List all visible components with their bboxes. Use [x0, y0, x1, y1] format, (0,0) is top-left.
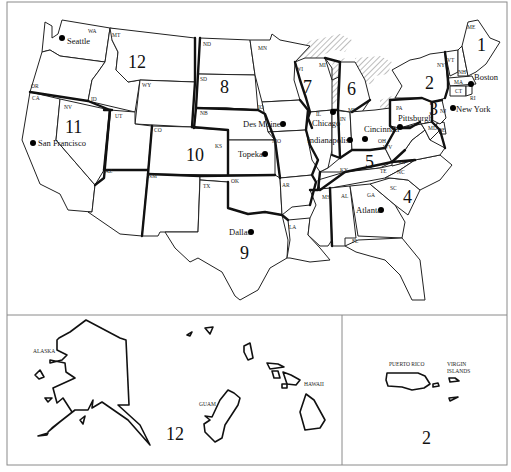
svg-text:NV: NV [64, 104, 72, 110]
svg-text:IO: IO [258, 104, 264, 110]
city-seattle: Seattle [67, 36, 90, 46]
svg-text:FL: FL [352, 238, 359, 244]
city-new-york: New York [456, 104, 491, 114]
svg-text:SD: SD [200, 76, 207, 82]
city-chicago: Chicago [312, 118, 340, 128]
svg-text:CA: CA [32, 95, 40, 101]
svg-text:VA: VA [398, 159, 405, 165]
pacific-region-label: 12 [166, 424, 184, 444]
svg-text:DE: DE [438, 127, 446, 133]
region-12-label: 12 [128, 52, 146, 72]
region-6-label: 6 [347, 79, 356, 99]
svg-text:NH: NH [458, 69, 466, 75]
label-virgin: VIRGIN [447, 361, 466, 367]
mainland-states [22, 20, 500, 300]
city-boston: Boston [474, 72, 499, 82]
city-cincinnati: Cincinnati [364, 124, 400, 134]
svg-text:WY: WY [142, 82, 151, 88]
region-7-label: 7 [303, 77, 312, 97]
city-dallas: Dallas [229, 227, 251, 237]
svg-text:MT: MT [112, 32, 121, 38]
label-alaska: ALASKA [33, 348, 55, 354]
svg-text:ME: ME [467, 24, 476, 30]
svg-text:MS: MS [322, 194, 330, 200]
svg-text:NJ: NJ [440, 108, 447, 114]
region-map: Seattle San Francisco Des Moines Topeka … [0, 0, 511, 472]
alaska-shape [48, 320, 150, 445]
svg-text:RI: RI [470, 95, 476, 101]
svg-text:NB: NB [200, 110, 208, 116]
svg-text:MI: MI [319, 62, 326, 68]
label-islands: ISLANDS [447, 368, 470, 374]
caribbean-inset: PUERTO RICO VIRGIN ISLANDS 2 [386, 361, 470, 448]
svg-text:SC: SC [390, 185, 397, 191]
svg-text:CT: CT [455, 88, 463, 94]
region-5-label: 5 [365, 152, 374, 172]
svg-text:MI: MI [348, 107, 355, 113]
svg-text:LA: LA [289, 224, 296, 230]
city-des-moines: Des Moines [243, 119, 284, 129]
svg-text:TX: TX [203, 183, 210, 189]
svg-text:MD: MD [428, 125, 437, 131]
svg-text:UT: UT [115, 113, 123, 119]
svg-text:PA: PA [396, 105, 403, 111]
svg-text:KS: KS [215, 143, 222, 149]
puerto-rico-shape [386, 373, 430, 390]
svg-text:WI: WI [296, 66, 303, 72]
region-2-label: 2 [425, 73, 434, 93]
svg-text:NC: NC [397, 169, 405, 175]
svg-text:TE: TE [380, 168, 387, 174]
svg-text:ND: ND [203, 41, 211, 47]
city-san-francisco: San Francisco [38, 138, 86, 148]
svg-text:OR: OR [31, 83, 39, 89]
svg-text:AR: AR [282, 182, 290, 188]
region-11-label: 11 [65, 117, 82, 137]
label-hawaii: HAWAII [304, 381, 324, 387]
svg-text:ID: ID [91, 96, 97, 102]
svg-text:OK: OK [231, 178, 239, 184]
svg-text:WA: WA [88, 28, 97, 34]
city-indianapolis: Indianapolis [307, 135, 349, 145]
svg-text:MO: MO [272, 138, 281, 144]
svg-text:WV: WV [383, 144, 392, 150]
svg-text:MA: MA [454, 79, 463, 85]
svg-text:VT: VT [447, 57, 455, 63]
svg-text:KY: KY [340, 167, 348, 173]
svg-text:AZ: AZ [105, 168, 113, 174]
city-topeka: Topeka [238, 149, 263, 159]
svg-text:CO: CO [154, 127, 162, 133]
svg-text:IN: IN [340, 116, 346, 122]
svg-text:IL: IL [316, 111, 322, 117]
svg-text:AL: AL [341, 193, 349, 199]
caribbean-region-label: 2 [422, 428, 431, 448]
city-atlanta: Atlanta [356, 205, 381, 215]
svg-text:NM: NM [148, 173, 157, 179]
region-4-label: 4 [403, 187, 412, 207]
label-guam: GUAM [199, 401, 216, 407]
pacific-inset: ALASKA HAWAII GUAM 12 [33, 320, 325, 445]
region-9-label: 9 [240, 243, 249, 263]
region-1-label: 1 [477, 35, 486, 55]
label-puerto-rico: PUERTO RICO [389, 361, 425, 367]
svg-text:GA: GA [367, 192, 375, 198]
region-3-label: 3 [429, 99, 438, 119]
region-8-label: 8 [220, 77, 229, 97]
region-10-label: 10 [186, 145, 204, 165]
svg-text:MN: MN [258, 45, 267, 51]
svg-text:NY: NY [437, 62, 445, 68]
